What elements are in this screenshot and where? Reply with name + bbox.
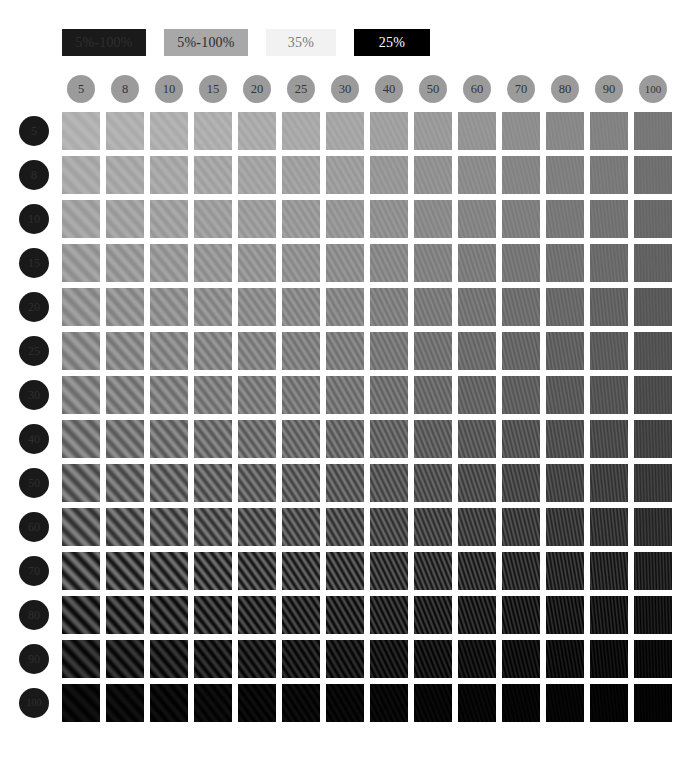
- column-header-cell: 15: [194, 74, 232, 104]
- grating-patch: [150, 156, 188, 194]
- grating-canvas: [106, 332, 144, 370]
- grating-canvas: [326, 156, 364, 194]
- grating-patch: [282, 200, 320, 238]
- column-header-cell: 20: [238, 74, 276, 104]
- column-header-label: 30: [339, 83, 352, 96]
- grating-patch: [150, 376, 188, 414]
- grating-patch: [414, 552, 452, 590]
- grating-canvas: [62, 244, 100, 282]
- grating-patch: [282, 332, 320, 370]
- grating-canvas: [194, 332, 232, 370]
- grating-patch: [238, 112, 276, 150]
- grating-canvas: [590, 332, 628, 370]
- grating-canvas: [238, 420, 276, 458]
- grating-canvas: [62, 288, 100, 326]
- grating-patch: [194, 288, 232, 326]
- grating-canvas: [458, 596, 496, 634]
- grating-canvas: [546, 464, 584, 502]
- grating-patch: [546, 508, 584, 546]
- grating-canvas: [150, 596, 188, 634]
- row-header-chip: 30: [19, 380, 49, 410]
- row-header-label: 60: [28, 521, 40, 533]
- row-header-chip: 20: [19, 292, 49, 322]
- column-header-chip: 40: [375, 75, 403, 103]
- grating-canvas: [62, 552, 100, 590]
- grating-patch: [150, 288, 188, 326]
- grating-patch: [326, 640, 364, 678]
- grating-patch: [150, 112, 188, 150]
- grating-patch: [502, 112, 540, 150]
- grating-canvas: [238, 376, 276, 414]
- grating-patch: [150, 332, 188, 370]
- row-header-label: 90: [28, 653, 40, 665]
- grating-canvas: [546, 376, 584, 414]
- grating-patch: [62, 420, 100, 458]
- column-header-label: 5: [78, 83, 84, 96]
- grating-canvas: [62, 376, 100, 414]
- grating-canvas: [62, 420, 100, 458]
- column-header-label: 50: [427, 83, 440, 96]
- grating-canvas: [458, 420, 496, 458]
- grating-patch: [502, 596, 540, 634]
- grating-patch: [150, 508, 188, 546]
- grating-canvas: [458, 332, 496, 370]
- grating-canvas: [326, 420, 364, 458]
- grating-canvas: [370, 596, 408, 634]
- grating-patch: [326, 420, 364, 458]
- grating-patch: [414, 420, 452, 458]
- grating-patch: [62, 552, 100, 590]
- grating-patch: [326, 552, 364, 590]
- grating-patch: [546, 376, 584, 414]
- grating-patch: [502, 156, 540, 194]
- grating-canvas: [634, 420, 672, 458]
- grating-patch: [194, 596, 232, 634]
- grating-canvas: [414, 596, 452, 634]
- grating-canvas: [194, 376, 232, 414]
- grating-canvas: [370, 464, 408, 502]
- grating-patch: [62, 244, 100, 282]
- grating-patch: [150, 640, 188, 678]
- grating-canvas: [238, 596, 276, 634]
- column-header-cell: 60: [458, 74, 496, 104]
- column-header-label: 100: [645, 84, 662, 95]
- grating-canvas: [458, 684, 496, 722]
- grating-patch: [282, 640, 320, 678]
- grating-patch: [326, 684, 364, 722]
- grating-canvas: [502, 288, 540, 326]
- grating-canvas: [106, 552, 144, 590]
- grating-canvas: [590, 112, 628, 150]
- grating-patch: [106, 684, 144, 722]
- legend: 5%-100%5%-100%35%25%: [62, 29, 430, 56]
- grating-canvas: [194, 200, 232, 238]
- grating-patch: [194, 156, 232, 194]
- grating-canvas: [106, 684, 144, 722]
- grating-canvas: [634, 332, 672, 370]
- grating-patch: [590, 596, 628, 634]
- grating-canvas: [282, 508, 320, 546]
- grating-canvas: [62, 112, 100, 150]
- column-header-chip: 100: [639, 75, 667, 103]
- grating-canvas: [62, 684, 100, 722]
- grating-patch: [546, 244, 584, 282]
- grating-patch: [546, 200, 584, 238]
- grating-patch: [370, 508, 408, 546]
- row-header-cell: 30: [16, 376, 52, 414]
- column-header-cell: 5: [62, 74, 100, 104]
- column-header-label: 20: [251, 83, 264, 96]
- grating-canvas: [414, 508, 452, 546]
- column-header-label: 90: [603, 83, 616, 96]
- grating-patch: [62, 332, 100, 370]
- grating-canvas: [590, 464, 628, 502]
- legend-item: 35%: [266, 29, 336, 56]
- grating-canvas: [590, 596, 628, 634]
- grating-canvas: [502, 332, 540, 370]
- grating-canvas: [150, 552, 188, 590]
- grating-canvas: [634, 640, 672, 678]
- grating-canvas: [194, 684, 232, 722]
- grating-patch: [414, 112, 452, 150]
- grating-canvas: [458, 200, 496, 238]
- row-header-label: 15: [28, 257, 40, 269]
- grating-canvas: [370, 376, 408, 414]
- grating-canvas: [282, 112, 320, 150]
- grating-patch: [590, 200, 628, 238]
